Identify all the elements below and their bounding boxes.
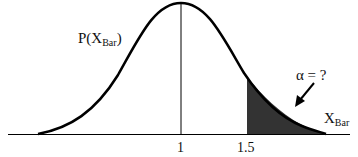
alpha-annotation: α = ? — [296, 67, 326, 84]
curve-label-sub: Bar — [102, 37, 116, 48]
normal-curve-diagram: P(XBar) α = ? XBar 1 1.5 — [0, 0, 358, 157]
axis-label-sub: Bar — [335, 117, 349, 128]
curve-label-close: ) — [117, 30, 122, 46]
tick-label-1-5: 1.5 — [237, 140, 255, 156]
tick-label-1: 1 — [177, 140, 184, 156]
axis-label: XBar — [324, 110, 349, 127]
shaded-tail-area — [247, 77, 326, 134]
curve-label: P(XBar) — [78, 30, 122, 47]
bell-curve — [38, 3, 326, 134]
arrow-line — [300, 83, 314, 100]
axis-label-main: X — [324, 110, 335, 126]
curve-label-main: P(X — [78, 30, 102, 46]
